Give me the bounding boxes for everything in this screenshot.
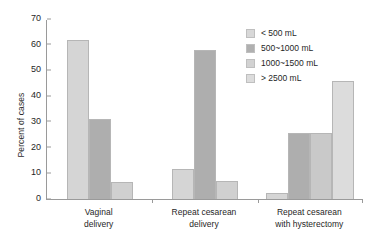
legend-item[interactable]: 1000~1500 mL [246, 56, 366, 71]
y-axis-tick-label: 0 [36, 193, 41, 204]
y-axis-tick-label: 50 [31, 64, 41, 75]
bar[interactable] [266, 193, 288, 199]
x-axis-label-line: with hysterectomy [257, 218, 362, 230]
x-axis-label-line: delivery [46, 218, 151, 230]
legend-swatch [246, 74, 255, 83]
y-axis-tick-label: 70 [31, 13, 41, 24]
legend-label: 1000~1500 mL [261, 58, 318, 69]
y-axis-tick-label: 60 [31, 38, 41, 49]
y-axis-title: Percent of cases [14, 0, 28, 250]
bar-group-bars [152, 20, 257, 199]
y-axis-tick-label: 20 [31, 141, 41, 152]
legend-item[interactable]: > 2500 mL [246, 71, 366, 86]
x-axis-label-line: Vaginal [46, 206, 151, 218]
x-axis-separator-tick [258, 199, 259, 203]
x-axis-label: Repeat cesareanwith hysterectomy [257, 206, 362, 230]
bar[interactable] [288, 133, 310, 199]
legend-item[interactable]: < 500 mL [246, 26, 366, 41]
legend-swatch [246, 59, 255, 68]
legend-label: 500~1000 mL [261, 43, 313, 54]
x-axis-label-line: Repeat cesarean [151, 206, 256, 218]
bar-group [47, 20, 152, 199]
x-axis-separator-tick [152, 199, 153, 203]
x-axis-separator-tick [362, 199, 363, 203]
bar[interactable] [194, 50, 216, 199]
bar[interactable] [216, 181, 238, 199]
y-axis-tick-label: 10 [31, 167, 41, 178]
bar-group [152, 20, 257, 199]
chart-legend: < 500 mL500~1000 mL1000~1500 mL> 2500 mL [246, 26, 366, 86]
legend-label: < 500 mL [261, 28, 297, 39]
legend-swatch [246, 29, 255, 38]
y-axis-tick-mark [47, 18, 51, 19]
legend-item[interactable]: 500~1000 mL [246, 41, 366, 56]
x-axis-label: Repeat cesareandelivery [151, 206, 256, 230]
bar[interactable] [89, 119, 111, 199]
bar[interactable] [172, 169, 194, 199]
legend-label: > 2500 mL [261, 73, 301, 84]
bar[interactable] [111, 182, 133, 199]
x-axis-label-line: delivery [151, 218, 256, 230]
bar[interactable] [332, 81, 354, 199]
y-axis-tick-label: 30 [31, 115, 41, 126]
bar-group-bars [47, 20, 152, 199]
y-axis-tick-label: 40 [31, 90, 41, 101]
bar[interactable] [67, 40, 89, 199]
bar[interactable] [310, 133, 332, 199]
x-axis-label-line: Repeat cesarean [257, 206, 362, 218]
bar-chart: Percent of cases 010203040506070 Vaginal… [0, 0, 382, 250]
legend-swatch [246, 44, 255, 53]
x-axis-label: Vaginaldelivery [46, 206, 151, 230]
